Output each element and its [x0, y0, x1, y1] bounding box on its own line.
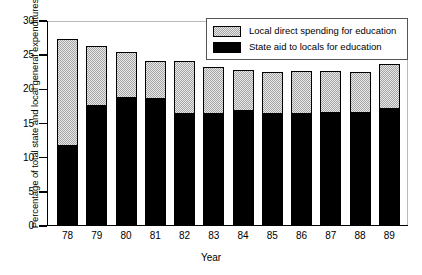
- legend-label: State aid to locals for education: [249, 41, 382, 52]
- y-axis-label: 0: [8, 220, 34, 231]
- bar: [262, 72, 283, 226]
- y-axis-tick: [39, 191, 47, 192]
- bar-segment-local-direct-spending: [87, 47, 106, 106]
- y-axis-label: 10: [8, 152, 34, 163]
- bar-segment-local-direct-spending: [234, 71, 253, 111]
- y-axis-tick: [39, 89, 47, 90]
- x-axis-label: 88: [345, 230, 375, 241]
- y-axis-label: 15: [8, 118, 34, 129]
- bar: [233, 70, 254, 226]
- bar: [57, 39, 78, 226]
- x-axis-title: Year: [0, 252, 422, 263]
- y-axis-label: 30: [8, 15, 34, 26]
- bar: [203, 67, 224, 226]
- x-axis-label: 83: [199, 230, 229, 241]
- bar-segment-local-direct-spending: [175, 62, 194, 114]
- bar: [379, 64, 400, 226]
- bar: [86, 46, 107, 226]
- x-axis-label: 86: [287, 230, 317, 241]
- bar-segment-local-direct-spending: [380, 65, 399, 109]
- y-axis-tick: [39, 157, 47, 158]
- bar: [350, 72, 371, 226]
- y-axis-tick: [39, 225, 47, 226]
- y-axis-label: 20: [8, 83, 34, 94]
- y-axis-tick: [39, 20, 47, 21]
- bar-segment-local-direct-spending: [292, 72, 311, 114]
- x-axis-label: 85: [257, 230, 287, 241]
- y-axis-tick: [39, 54, 47, 55]
- legend-swatch-black-icon: [213, 42, 241, 53]
- bar-segment-local-direct-spending: [204, 68, 223, 114]
- legend-swatch-gray-icon: [213, 26, 241, 37]
- y-axis-label: 5: [8, 186, 34, 197]
- bar-segment-local-direct-spending: [263, 73, 282, 113]
- x-axis-label: 89: [374, 230, 404, 241]
- legend-label: Local direct spending for education: [249, 25, 396, 36]
- legend: Local direct spending for education Stat…: [206, 18, 408, 60]
- bar-segment-local-direct-spending: [321, 72, 340, 113]
- bar: [145, 61, 166, 226]
- x-axis-label: 81: [140, 230, 170, 241]
- chart-container: Percentage of total state and local gene…: [0, 0, 422, 275]
- x-axis-label: 82: [170, 230, 200, 241]
- bar: [116, 52, 137, 226]
- bar-segment-local-direct-spending: [58, 40, 77, 146]
- bar-segment-local-direct-spending: [351, 73, 370, 113]
- x-axis-label: 87: [316, 230, 346, 241]
- x-axis-label: 78: [53, 230, 83, 241]
- bar-segment-local-direct-spending: [117, 53, 136, 97]
- y-axis-label: 25: [8, 49, 34, 60]
- bar-segment-local-direct-spending: [146, 62, 165, 100]
- x-axis-label: 80: [111, 230, 141, 241]
- y-axis-tick: [39, 123, 47, 124]
- x-axis-label: 84: [228, 230, 258, 241]
- bar: [174, 61, 195, 226]
- bar: [291, 71, 312, 226]
- bar: [320, 71, 341, 226]
- x-axis-label: 79: [82, 230, 112, 241]
